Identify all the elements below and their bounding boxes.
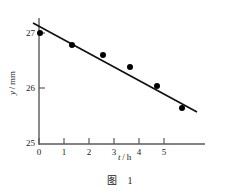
x-axis-title: t / h	[118, 152, 131, 162]
x-tick-label-0: 0	[37, 147, 42, 157]
scatter-plot: 27 26 25 0 1 2 3 4 5	[0, 0, 240, 194]
y-axis-symbol: y	[7, 91, 17, 95]
data-point	[100, 52, 106, 58]
data-point	[69, 42, 75, 48]
y-axis-title: y / mm	[7, 59, 17, 107]
x-tick-label-3: 3	[112, 147, 117, 157]
figure-container: 27 26 25 0 1 2 3 4 5 t / h y / mm 图1	[0, 0, 240, 194]
y-axis-unit: mm	[7, 71, 17, 85]
y-tick-label-26: 26	[26, 83, 36, 93]
x-axis-unit: h	[127, 152, 132, 162]
x-tick-label-5: 5	[162, 147, 167, 157]
data-point	[37, 30, 43, 36]
data-point	[154, 83, 160, 89]
y-tick-label-25: 25	[26, 138, 36, 148]
caption-label: 图	[107, 175, 118, 186]
x-tick-label-4: 4	[137, 147, 142, 157]
data-point	[179, 105, 185, 111]
y-tick-label-27: 27	[26, 28, 36, 38]
data-point	[127, 64, 133, 70]
fit-line	[33, 23, 197, 112]
x-tick-label-2: 2	[87, 147, 92, 157]
figure-caption: 图1	[0, 172, 240, 187]
y-axis-separator: /	[7, 85, 17, 91]
x-tick-label-1: 1	[62, 147, 67, 157]
caption-number: 1	[128, 175, 134, 186]
